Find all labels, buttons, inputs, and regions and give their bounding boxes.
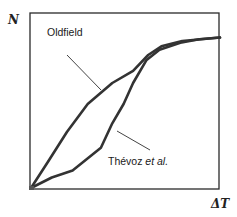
thevoz-leader-line xyxy=(117,131,150,150)
chart-canvas xyxy=(0,0,237,217)
thevoz-label: Thévoz et al. xyxy=(108,155,168,167)
x-axis-label: ΔT xyxy=(211,197,229,211)
y-axis-label: N xyxy=(8,13,19,27)
oldfield-label: Oldfield xyxy=(47,26,83,38)
oldfield-leader-line xyxy=(67,55,101,90)
origin-marker xyxy=(29,186,34,190)
thevoz-label-main: Thévoz xyxy=(108,155,145,167)
thevoz-label-italic: et al. xyxy=(145,155,168,167)
